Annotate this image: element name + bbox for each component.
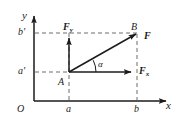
vector-label-fx-base: F: [139, 65, 146, 76]
vector-label-fx-subscript: x: [146, 70, 150, 78]
point-label-b: B: [131, 22, 137, 32]
vector-decomposition-figure: y x O a b a' b' A B F Fx Fy α: [0, 0, 178, 124]
angle-arc-alpha: [93, 60, 96, 72]
x-tick-label-a: a: [66, 104, 71, 114]
x-axis-label: x: [166, 100, 171, 111]
vector-label-fx: Fx: [139, 66, 149, 76]
point-label-a: A: [58, 77, 64, 87]
origin-label: O: [17, 104, 24, 114]
x-tick-label-b: b: [134, 104, 139, 114]
y-axis-label: y: [22, 10, 27, 21]
vector-label-fy-subscript: y: [70, 26, 73, 34]
y-tick-label-b-prime: b': [18, 27, 25, 37]
vector-label-f: F: [144, 31, 151, 41]
vector-label-fy-base: F: [63, 21, 70, 32]
vector-label-fy: Fy: [63, 22, 73, 32]
angle-label-alpha: α: [98, 60, 103, 69]
y-tick-label-a-prime: a': [18, 66, 25, 76]
